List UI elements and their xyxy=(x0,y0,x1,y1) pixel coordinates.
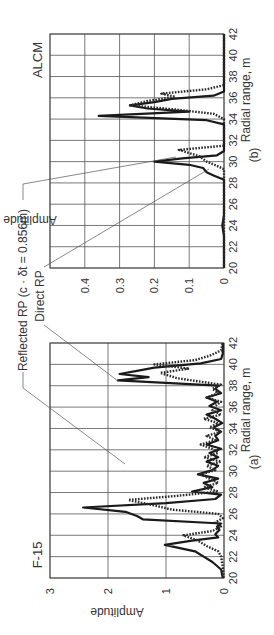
x-tick-label: 32 xyxy=(227,134,239,146)
x-tick-label: 30 xyxy=(227,465,239,477)
direct-rp-leader xyxy=(44,169,209,381)
chart-title: ALCM xyxy=(30,42,45,78)
x-tick-label: 24 xyxy=(227,529,239,541)
x-tick-label: 22 xyxy=(227,551,239,563)
x-tick-label: 38 xyxy=(227,70,239,82)
figure: 20222426283032343638404200.10.20.30.4ALC… xyxy=(0,0,274,635)
y-axis-label: Amplitude xyxy=(90,605,144,619)
chart-caption: (b) xyxy=(247,148,261,163)
direct-rp-label: Direct RP xyxy=(33,270,47,321)
x-tick-label: 30 xyxy=(227,156,239,168)
y-tick-label: 0.2 xyxy=(148,278,160,293)
y-tick-label: 0.4 xyxy=(79,278,91,293)
x-tick-label: 26 xyxy=(227,508,239,520)
reflected-rp-label: Reflected RP (c · δt = 0.856m) xyxy=(16,209,30,371)
y-tick-label: 0 xyxy=(218,278,230,284)
chart-title: F-15 xyxy=(30,542,45,569)
x-tick-label: 36 xyxy=(227,92,239,104)
x-tick-label: 28 xyxy=(227,486,239,498)
x-tick-label: 20 xyxy=(227,572,239,584)
x-tick-label: 40 xyxy=(227,49,239,61)
x-tick-label: 42 xyxy=(227,337,239,349)
y-tick-label: 0 xyxy=(218,588,230,594)
y-tick-label: 0.3 xyxy=(114,278,126,293)
direct-rp-series xyxy=(99,34,224,268)
x-tick-label: 40 xyxy=(227,358,239,370)
chart-caption: (a) xyxy=(247,455,261,470)
x-tick-label: 20 xyxy=(227,262,239,274)
x-axis-label: Radial range, m xyxy=(239,368,253,453)
reflected-rp-series xyxy=(130,34,224,268)
y-tick-label: 2 xyxy=(102,588,114,594)
x-tick-label: 32 xyxy=(227,444,239,456)
plot-f15: 2022242628303234363840420123F-15(a)Radia… xyxy=(30,337,261,619)
x-tick-label: 36 xyxy=(227,401,239,413)
plot-frame xyxy=(50,34,224,268)
x-tick-label: 28 xyxy=(227,177,239,189)
x-tick-label: 22 xyxy=(227,241,239,253)
x-tick-label: 26 xyxy=(227,198,239,210)
x-tick-label: 42 xyxy=(227,28,239,40)
x-tick-label: 34 xyxy=(227,422,239,434)
y-tick-label: 0.1 xyxy=(183,278,195,293)
x-tick-label: 38 xyxy=(227,380,239,392)
plot-alcm: 20222426283032343638404200.10.20.30.4ALC… xyxy=(3,28,261,293)
x-axis-label: Radial range, m xyxy=(239,58,253,143)
x-tick-label: 24 xyxy=(227,219,239,231)
y-tick-label: 3 xyxy=(44,588,56,594)
x-tick-label: 34 xyxy=(227,113,239,125)
y-tick-label: 1 xyxy=(160,588,172,594)
